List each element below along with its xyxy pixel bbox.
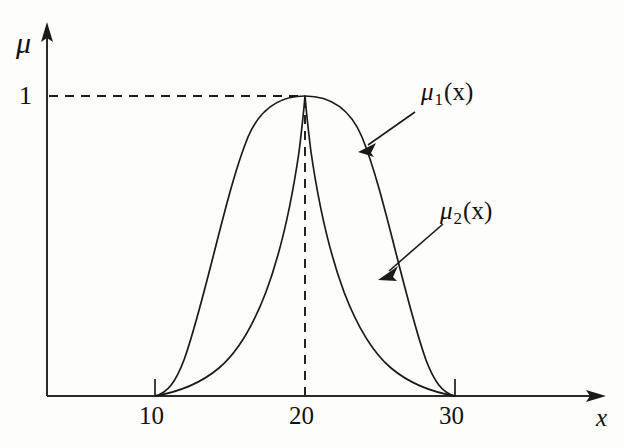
mu1-annotation-arrow-line <box>368 112 415 145</box>
curve-label-mu1: μ1(x) <box>421 78 473 110</box>
y-tick-label-1: 1 <box>19 81 32 111</box>
x-tick-label-30: 30 <box>439 402 464 430</box>
curve-label-mu1-subscript: 1 <box>434 90 445 109</box>
x-tick-label-20: 20 <box>289 402 314 430</box>
chart-canvas <box>0 0 624 448</box>
curve-label-mu2-argument: (x) <box>463 197 492 224</box>
x-tick-label-10: 10 <box>139 402 164 430</box>
mu2-annotation-arrowhead-icon <box>378 266 398 281</box>
curve-label-mu2-base: μ <box>440 197 453 224</box>
y-axis-label: μ <box>16 26 31 60</box>
curve-label-mu1-argument: (x) <box>444 78 473 105</box>
x-axis-label: x <box>596 404 607 432</box>
mu2-annotation-arrow-line <box>389 224 443 271</box>
fuzzy-membership-figure: μ 1 10 20 30 x μ1(x) μ2(x) <box>0 0 624 448</box>
mu1-annotation-arrowhead-icon <box>358 143 376 157</box>
curve-label-mu1-base: μ <box>421 78 434 105</box>
curve-label-mu2: μ2(x) <box>440 197 492 229</box>
curve-label-mu2-subscript: 2 <box>453 209 464 228</box>
